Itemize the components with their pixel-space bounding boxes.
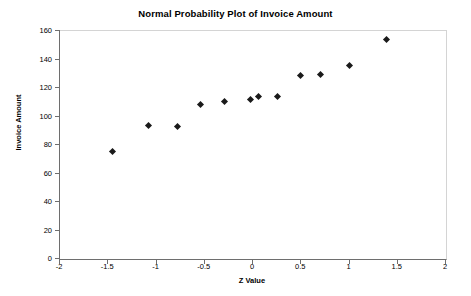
x-axis-tick-mark [204,259,205,264]
plot-area [59,30,447,260]
x-axis-title: Z Value [59,276,445,285]
y-axis-tick-mark [55,116,60,117]
y-axis-tick-label: 120 [18,83,52,92]
y-axis-tick-label: 80 [18,140,52,149]
chart-title: Normal Probability Plot of Invoice Amoun… [0,8,471,19]
y-axis-tick-mark [55,173,60,174]
y-axis-tick-mark [55,201,60,202]
y-axis-tick-label: 100 [18,111,52,120]
y-axis-tick-label: 60 [18,168,52,177]
y-axis-tick-mark [55,230,60,231]
x-axis-tick-mark [300,259,301,264]
y-axis-tick-label: 40 [18,197,52,206]
x-axis-tick-mark [397,259,398,264]
y-axis-tick-mark [55,87,60,88]
y-axis-tick-label: 160 [18,26,52,35]
x-axis-tick-mark [156,259,157,264]
y-axis-tick-label: 20 [18,225,52,234]
y-axis-tick-mark [55,59,60,60]
x-axis-tick-mark [349,259,350,264]
x-axis-tick-mark [59,259,60,264]
x-axis-tick-mark [445,259,446,264]
y-axis-title: Invoice Amount [14,78,23,168]
y-axis-tick-label: 140 [18,54,52,63]
y-axis-tick-mark [55,30,60,31]
y-axis-tick-mark [55,144,60,145]
x-axis-tick-mark [107,259,108,264]
x-axis-tick-mark [252,259,253,264]
normal-probability-plot: Normal Probability Plot of Invoice Amoun… [0,0,471,296]
